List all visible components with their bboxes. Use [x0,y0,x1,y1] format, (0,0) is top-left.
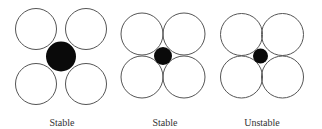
large-circle [16,9,57,50]
small-black-circle [154,47,172,65]
panel-label: Unstable [244,117,280,128]
panel-2: Stable [121,13,205,128]
panel-1: Stable [16,9,107,129]
small-black-circle [253,49,268,64]
large-circle [221,14,263,56]
panel-3: Unstable [221,14,304,129]
large-circle [16,64,57,105]
large-circle [66,64,107,105]
packing-stability-diagram: Stable Stable Unstable [0,0,322,129]
panel-label: Stable [50,117,76,128]
large-circle [66,9,107,50]
large-circle [221,56,263,98]
large-circle [262,14,304,56]
large-circle [163,13,205,55]
small-black-circle [46,42,76,72]
panel-label: Stable [153,117,179,128]
large-circle [262,56,304,98]
large-circle [121,13,163,55]
